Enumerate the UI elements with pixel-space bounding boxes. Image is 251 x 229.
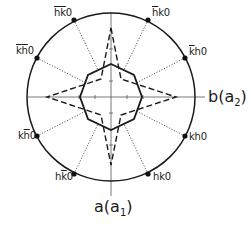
label-part: 0 xyxy=(164,7,170,18)
axis-paren-letter: a xyxy=(110,197,120,216)
label-part: 0 xyxy=(30,130,36,141)
point-bottom-right xyxy=(145,171,150,176)
label-lower-right: kh0 xyxy=(189,131,207,143)
label-part: 0 xyxy=(201,131,207,142)
dashed-star xyxy=(47,28,176,165)
point-top-left xyxy=(71,17,76,22)
axis-label-b: b(a2) xyxy=(208,88,247,112)
axis-paren-letter: a xyxy=(224,87,234,106)
label-part: 0 xyxy=(67,171,73,182)
axis-subscript: 1 xyxy=(120,207,126,218)
axis-label-a: a(a1) xyxy=(94,198,133,222)
point-upper-left xyxy=(34,55,39,60)
label-upper-left: kh0 xyxy=(16,45,34,57)
point-top-right xyxy=(145,17,150,22)
label-part: 0 xyxy=(165,171,171,182)
label-top-right: hk0 xyxy=(152,7,170,19)
axis-letter: a xyxy=(94,197,104,216)
diagram-svg xyxy=(0,0,251,229)
label-top-left: hk0 xyxy=(54,7,72,19)
label-part: 0 xyxy=(66,7,72,18)
label-part: 0 xyxy=(201,46,207,57)
diagram-canvas: hk0 hk0 kh0 kh0 kh0 kh0 hk0 hk0 b(a2) a(… xyxy=(0,0,251,229)
label-bottom-left: hk0 xyxy=(55,171,73,183)
label-upper-right: kh0 xyxy=(189,46,207,58)
axis-letter: b xyxy=(208,87,218,106)
point-upper-right xyxy=(182,55,187,60)
label-part: 0 xyxy=(28,45,34,56)
label-bottom-right: hk0 xyxy=(153,171,171,183)
axis-subscript: 2 xyxy=(234,97,240,108)
label-lower-left: kh0 xyxy=(18,130,36,142)
point-lower-right xyxy=(182,133,187,138)
